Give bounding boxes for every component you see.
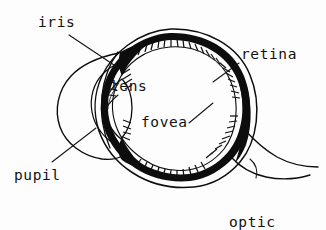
eye-anatomy-figure: iris lens retina fovea pupil optic nerve <box>0 0 326 230</box>
label-optic-nerve-line1: optic <box>229 214 276 230</box>
leader-line-pupil <box>52 128 96 162</box>
leader-line-optic-nerve <box>250 159 257 178</box>
label-retina: retina <box>241 46 297 62</box>
leader-line-fovea <box>189 103 213 123</box>
leader-line-iris <box>69 35 120 69</box>
label-optic-nerve: optic nerve <box>229 182 276 230</box>
label-lens: lens <box>110 78 147 94</box>
label-pupil: pupil <box>14 167 61 183</box>
retina-inner-outline <box>112 47 236 171</box>
label-fovea: fovea <box>141 114 188 130</box>
label-iris: iris <box>38 14 75 30</box>
optic-nerve-lower-edge <box>231 157 310 179</box>
